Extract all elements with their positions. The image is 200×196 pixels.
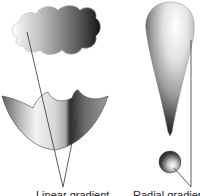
radial-gradient-label: Radial gradient	[133, 189, 200, 196]
teardrop-shape	[146, 2, 194, 136]
sphere-shape	[159, 151, 181, 173]
umbrella-canopy-shape	[2, 90, 108, 150]
linear-gradient-label: Linear gradient	[36, 189, 109, 196]
callout-line-sphere	[174, 168, 191, 187]
gradient-diagram	[0, 0, 200, 196]
cloud-shape	[12, 6, 100, 55]
